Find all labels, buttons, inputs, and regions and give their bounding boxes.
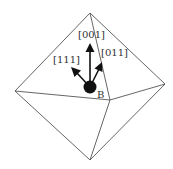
edge-left-front: [15, 91, 110, 100]
direction-arrows: [71, 43, 103, 87]
label-001: [001]: [78, 29, 105, 40]
label-ball-b: B: [97, 89, 104, 100]
edge-front-bottom: [90, 100, 110, 160]
label-011: [011]: [101, 47, 128, 58]
octahedron-diagram: [001] [111] [011] B: [0, 0, 173, 169]
ball-b: [84, 81, 97, 94]
edge-left-bottom: [15, 91, 90, 160]
edge-top-left: [15, 13, 90, 91]
arrowhead-001: [86, 43, 95, 52]
label-111: [111]: [53, 54, 80, 65]
